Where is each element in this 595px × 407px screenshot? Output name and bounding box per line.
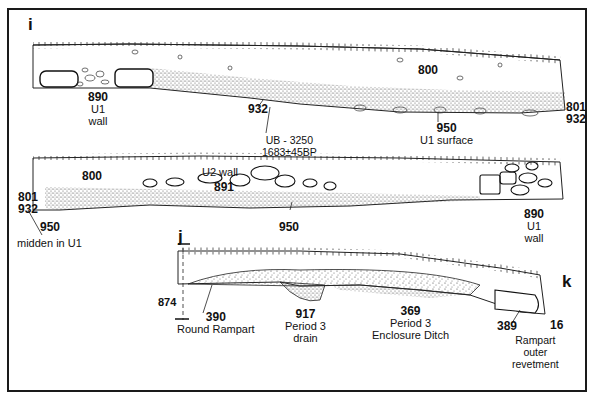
context-number: 890 — [524, 208, 544, 220]
upper-section — [33, 44, 565, 133]
section-drawings — [0, 0, 595, 407]
section-label-k: k — [562, 272, 571, 292]
context-390: 390 Round Rampart — [177, 311, 255, 335]
context-874: 874 — [158, 296, 176, 308]
revetment-line: Rampart — [512, 334, 559, 346]
context-number: 390 — [177, 311, 255, 323]
context-389: 389 — [497, 320, 517, 332]
midden-label: midden in U1 — [17, 237, 82, 249]
context-950a-middle: 950 — [40, 221, 60, 233]
context-number: 369 — [372, 305, 449, 317]
context-950b-middle: 950 — [279, 221, 299, 233]
context-932-middle: 932 — [18, 203, 38, 215]
context-932b-upper: 932 — [566, 113, 586, 125]
context-890-upper: 890 U1 wall — [88, 91, 108, 127]
context-number: 917 — [285, 308, 326, 320]
context-desc: Period 3 — [372, 317, 449, 329]
revetment-line: revetment — [512, 358, 559, 370]
context-932-upper: 932 — [248, 103, 268, 115]
context-desc: U1 surface — [420, 134, 473, 146]
context-number: 890 — [88, 91, 108, 103]
context-950-upper: 950 U1 surface — [420, 122, 473, 146]
context-890-middle: 890 U1 wall — [524, 208, 544, 244]
lab-code: UB - 3250 — [262, 134, 317, 146]
context-desc: drain — [285, 332, 326, 344]
context-desc: Period 3 — [285, 320, 326, 332]
context-number: 950 — [420, 122, 473, 134]
revetment-label: Rampart outer revetment — [512, 334, 559, 370]
radiocarbon-date: UB - 3250 1683±45BP — [262, 134, 317, 158]
section-label-j: j — [178, 227, 183, 247]
context-891: 891 — [214, 181, 234, 193]
context-369: 369 Period 3 Enclosure Ditch — [372, 305, 449, 341]
context-desc: Enclosure Ditch — [372, 329, 449, 341]
section-label-i: i — [28, 15, 33, 35]
context-desc: wall — [88, 115, 108, 127]
context-desc: Round Rampart — [177, 323, 255, 335]
u2-wall-label: U2 wall — [202, 166, 238, 178]
revetment-line: outer — [512, 346, 559, 358]
context-desc: U1 — [88, 103, 108, 115]
context-desc: wall — [524, 232, 544, 244]
context-800-middle: 800 — [82, 170, 102, 182]
context-16: 16 — [550, 319, 563, 331]
context-800-upper: 800 — [418, 64, 438, 76]
context-917: 917 Period 3 drain — [285, 308, 326, 344]
context-desc: U1 — [524, 220, 544, 232]
date-bp: 1683±45BP — [262, 146, 317, 158]
